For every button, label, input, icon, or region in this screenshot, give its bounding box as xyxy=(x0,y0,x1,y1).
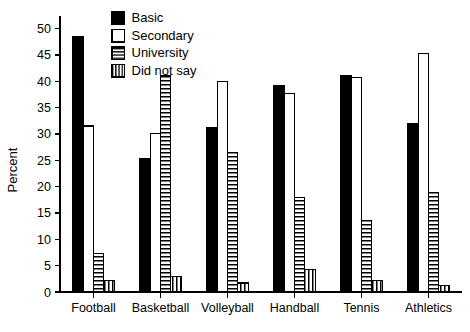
x-tick-label: Volleyball xyxy=(201,301,254,315)
bars-layer xyxy=(73,36,450,292)
bar xyxy=(429,193,439,292)
legend-label: Basic xyxy=(132,10,164,25)
bar xyxy=(418,54,428,292)
legend-swatch-basic xyxy=(112,12,125,25)
bar xyxy=(305,269,315,292)
bar xyxy=(362,221,372,292)
bar-chart: 05101520253035404550 FootballBasketballV… xyxy=(0,0,470,332)
chart-container: 05101520253035404550 FootballBasketballV… xyxy=(0,0,470,332)
y-tick-label: 35 xyxy=(37,101,51,115)
legend-swatch-did-not-say xyxy=(112,65,125,78)
bar xyxy=(372,281,382,292)
y-tick-label: 25 xyxy=(37,154,51,168)
y-tick-label: 20 xyxy=(37,180,51,194)
bar xyxy=(104,281,114,292)
bar-group xyxy=(341,75,383,292)
x-tick-label: Handball xyxy=(270,301,319,315)
bar xyxy=(351,78,361,292)
y-tick-label: 30 xyxy=(37,127,51,141)
x-tick-label: Football xyxy=(71,301,115,315)
bar xyxy=(217,81,227,292)
bar xyxy=(228,152,238,292)
y-tick-label: 10 xyxy=(37,233,51,247)
bar xyxy=(94,254,104,292)
bar xyxy=(408,123,418,292)
y-axis: 05101520253035404550 xyxy=(37,16,60,300)
legend-label: Did not say xyxy=(132,63,198,78)
bar xyxy=(295,198,305,292)
y-axis-title: Percent xyxy=(5,147,20,192)
x-tick-label: Tennis xyxy=(343,301,379,315)
chart-legend: BasicSecondaryUniversityDid not say xyxy=(112,10,197,78)
y-tick-label: 5 xyxy=(44,259,51,273)
bar xyxy=(150,134,160,292)
bar xyxy=(171,276,181,292)
bar-group xyxy=(274,85,316,292)
legend-swatch-university xyxy=(112,47,125,60)
legend-label: Secondary xyxy=(132,28,195,43)
y-tick-label: 0 xyxy=(44,286,51,300)
y-tick-label: 40 xyxy=(37,75,51,89)
bar xyxy=(83,126,93,292)
y-tick-label: 50 xyxy=(37,22,51,36)
bar xyxy=(341,75,351,292)
y-tick-label: 45 xyxy=(37,48,51,62)
bar-group xyxy=(73,36,115,292)
bar-group xyxy=(207,81,249,292)
bar-group xyxy=(408,54,450,292)
x-axis: FootballBasketballVolleyballHandballTenn… xyxy=(60,292,462,315)
x-tick-label: Athletics xyxy=(405,301,452,315)
legend-swatch-secondary xyxy=(112,30,125,43)
bar xyxy=(274,85,284,292)
bar xyxy=(73,36,83,292)
bar xyxy=(207,128,217,292)
bar xyxy=(140,159,150,292)
bar xyxy=(161,76,171,292)
y-tick-label: 15 xyxy=(37,206,51,220)
x-tick-label: Basketball xyxy=(132,301,190,315)
bar xyxy=(284,94,294,292)
bar-group xyxy=(140,76,182,292)
plot-area: 05101520253035404550 FootballBasketballV… xyxy=(37,16,462,315)
bar xyxy=(439,285,449,292)
bar xyxy=(238,283,248,292)
legend-label: University xyxy=(132,45,190,60)
